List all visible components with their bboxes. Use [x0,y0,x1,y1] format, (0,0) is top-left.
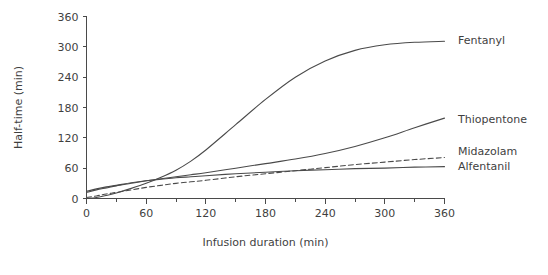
series-label-thiopentone: Thiopentone [457,113,527,126]
series-label-fentanyl: Fentanyl [458,34,505,47]
y-tick-label: 60 [65,162,79,175]
chart-canvas: 060120180240300360 060120180240300360 Fe… [0,0,548,275]
y-tick-label: 180 [58,102,79,115]
series-label-alfentanil: Alfentanil [458,160,510,173]
y-tick-label: 0 [72,193,79,206]
series-lines [87,41,445,198]
series-label-midazolam: Midazolam [458,145,517,158]
y-tick-label: 360 [58,11,79,24]
x-tick-label: 120 [195,207,216,220]
y-tick-label: 120 [58,132,79,145]
series-line-alfentanil [87,167,445,192]
x-tick-label: 180 [255,207,276,220]
x-axis-title: Infusion duration (min) [202,236,328,249]
y-tick-label: 300 [58,41,79,54]
half-time-line-chart: 060120180240300360 060120180240300360 Fe… [0,0,548,275]
x-tick-label: 240 [315,207,336,220]
y-axis-ticks: 060120180240300360 [58,11,87,206]
y-tick-label: 240 [58,71,79,84]
x-tick-label: 300 [374,207,395,220]
x-tick-label: 360 [434,207,455,220]
series-line-fentanyl [87,41,445,198]
series-labels: FentanylThiopentoneMidazolamAlfentanil [457,34,527,173]
x-tick-label: 60 [139,207,153,220]
x-axis-ticks: 060120180240300360 [83,199,455,220]
y-axis-title: Half-time (min) [12,66,25,149]
x-tick-label: 0 [83,207,90,220]
